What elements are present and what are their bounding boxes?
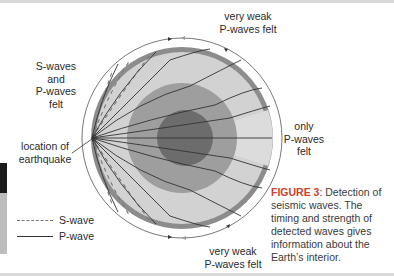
label-earthquake-location: location of earthquake — [14, 140, 76, 165]
arrow-icon — [168, 37, 172, 41]
label-only-p-waves-felt: only P-waves felt — [276, 120, 332, 158]
legend-p-wave: P-wave — [17, 230, 94, 242]
legend-label: S-wave — [59, 214, 94, 226]
label-bottom-weak-p-waves: very weak P-waves felt — [188, 245, 278, 270]
figure-number: FIGURE 3 — [271, 186, 319, 198]
legend-s-wave: S-wave — [17, 214, 94, 226]
arrow-icon — [182, 236, 186, 240]
arrow-icon — [181, 36, 185, 40]
label-top-weak-p-waves: very weak P-waves felt — [203, 10, 293, 35]
arrow-icon — [168, 235, 172, 239]
label-s-and-p-waves-felt: S-waves and P-waves felt — [26, 60, 86, 110]
figure-caption: FIGURE 3: Detection of seismic waves. Th… — [271, 186, 393, 264]
legend-label: P-wave — [59, 230, 94, 242]
dashed-line-icon — [17, 220, 53, 221]
solid-line-icon — [17, 236, 53, 237]
